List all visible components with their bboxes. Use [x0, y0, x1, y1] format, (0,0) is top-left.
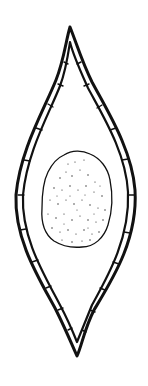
cell-illustration: [0, 0, 148, 386]
central-body: [42, 151, 112, 247]
central-body-outline: [42, 151, 112, 247]
